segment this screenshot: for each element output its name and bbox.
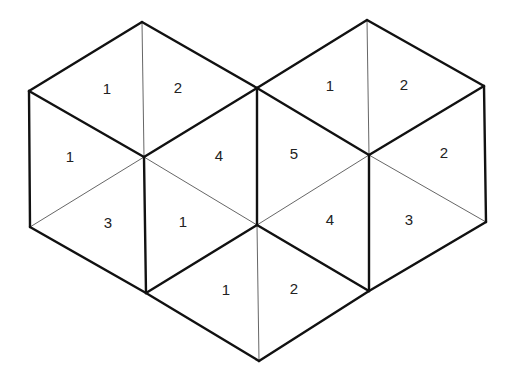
triangle-label: 1 — [326, 77, 334, 94]
triangle-label: 3 — [104, 214, 112, 231]
thick-lines — [29, 20, 486, 361]
triangle-label: 4 — [326, 211, 334, 228]
triangle-label: 1 — [66, 148, 74, 165]
triangle-label: 2 — [440, 144, 448, 161]
triangle-label: 2 — [174, 79, 182, 96]
triangle-label: 1 — [222, 281, 230, 298]
triangle-label: 1 — [103, 80, 111, 97]
triangle-label: 2 — [400, 76, 408, 93]
hexagon-triangle-diagram: 1 2 1 4 3 1 1 2 5 2 4 3 1 2 — [0, 0, 512, 383]
triangle-label: 3 — [405, 211, 413, 228]
triangle-label: 4 — [215, 147, 223, 164]
triangle-label: 5 — [290, 145, 298, 162]
triangle-label: 2 — [290, 280, 298, 297]
triangle-label: 1 — [179, 213, 187, 230]
